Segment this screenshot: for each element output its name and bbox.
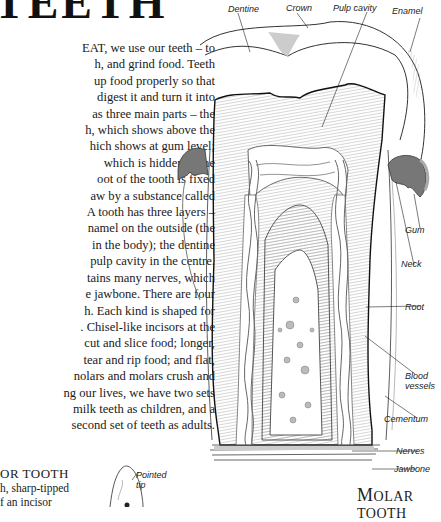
label-dentine: Dentine xyxy=(228,4,259,14)
label-blood-vessels-line2: vessels xyxy=(405,381,435,391)
diagram-caption: MOLAR TOOTH xyxy=(357,485,441,522)
label-gum: Gum xyxy=(405,225,425,235)
bone-region xyxy=(270,250,322,435)
label-blood-vessels-line1: Blood xyxy=(405,371,428,381)
label-nerves: Nerves xyxy=(396,446,425,456)
label-pointed-tip-line2: tip xyxy=(136,480,146,490)
label-pointed-tip-line1: Pointed xyxy=(136,470,167,480)
label-neck: Neck xyxy=(401,259,422,269)
gum-left xyxy=(178,148,208,180)
label-root: Root xyxy=(405,302,424,312)
label-blood-vessels: Blood vessels xyxy=(405,371,435,391)
label-pulp-cavity: Pulp cavity xyxy=(333,3,377,13)
label-crown: Crown xyxy=(286,3,312,13)
label-cementum: Cementum xyxy=(384,414,428,424)
label-pointed-tip: Pointed tip xyxy=(136,470,167,490)
label-jawbone: Jawbone xyxy=(394,464,430,474)
caption-initial: M xyxy=(357,485,374,505)
label-enamel: Enamel xyxy=(392,6,423,16)
cementum-outline xyxy=(386,150,392,440)
